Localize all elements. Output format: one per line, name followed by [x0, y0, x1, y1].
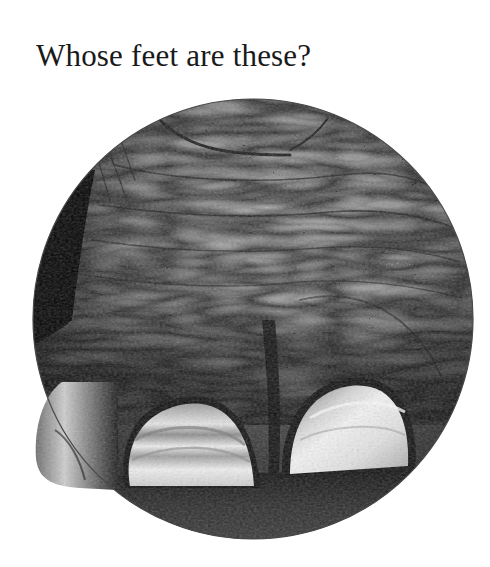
elephant-foot-photo [0, 0, 490, 567]
